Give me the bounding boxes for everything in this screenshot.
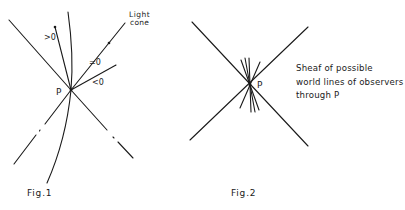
fig1-light-cone-line-left-lower-tail: [14, 135, 36, 164]
fig1-label-less-than-zero: <0: [92, 78, 104, 87]
fig1-light-cone-dot: [108, 42, 111, 45]
fig1-light-cone-label-line2: cone: [130, 18, 149, 27]
fig1-caption: Fig.1: [27, 188, 52, 198]
fig1-timelike-dot: [54, 26, 57, 29]
fig2-point-p-marker: [249, 84, 252, 87]
fig2-description-line: Sheaf of possible: [296, 62, 403, 76]
fig1-light-cone-dash-dot: [113, 137, 114, 138]
diagram-canvas: P >0 =0 <0 Light cone P: [0, 0, 405, 210]
fig1-label-equal-zero: =0: [89, 58, 101, 67]
fig1-light-cone-dash-dot-left: [40, 130, 41, 131]
fig1-diagram: P >0 =0 <0 Light cone: [9, 10, 150, 183]
fig2-caption: Fig.2: [231, 188, 256, 198]
fig1-label-greater-than-zero: >0: [44, 33, 56, 42]
fig2-description: Sheaf of possible world lines of observe…: [296, 62, 403, 103]
fig1-point-p-marker: [70, 89, 73, 92]
fig1-light-cone-line-right-lower-tail: [118, 142, 133, 158]
fig2-point-p-label: P: [257, 80, 263, 90]
fig1-light-cone-line-right-lower: [71, 90, 107, 130]
fig1-point-p-label: P: [56, 87, 62, 97]
fig2-description-line: world lines of observers: [296, 76, 403, 90]
fig2-description-line: through P: [296, 89, 403, 103]
fig2-diagram: P: [190, 22, 308, 146]
